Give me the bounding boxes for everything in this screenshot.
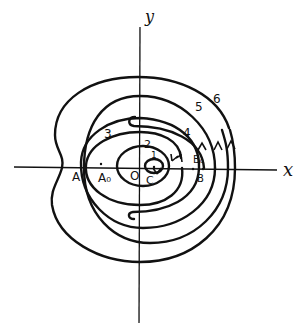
point-b-marker — [202, 168, 204, 170]
curve-2 — [117, 146, 169, 186]
origin-label: O — [130, 169, 139, 183]
curve-3-label: 3 — [104, 127, 112, 141]
curve-4-label: 4 — [183, 126, 191, 140]
x-axis-label: x — [283, 159, 293, 180]
curve-2-label: 2 — [144, 138, 151, 151]
y-axis-label: y — [144, 7, 155, 26]
curve-6-label: 6 — [213, 92, 221, 106]
point-b-label: B — [197, 173, 204, 184]
curve-1-label: 1 — [151, 150, 157, 160]
arrow-curve-5 — [214, 142, 222, 150]
point-b0-label: B₀ — [193, 154, 204, 165]
point-c-marker — [153, 166, 155, 168]
curve-5-label: 5 — [195, 100, 203, 114]
point-a-label: A — [72, 170, 81, 184]
phase-diagram: y x O A A₀ B₀ B C 1 2 3 4 5 6 — [0, 0, 300, 330]
point-b0-marker — [192, 168, 194, 170]
point-a0-marker — [100, 163, 102, 165]
point-c-label: C — [146, 174, 154, 187]
arrow-curve-4 — [198, 143, 206, 150]
point-a0-label: A₀ — [98, 171, 111, 185]
